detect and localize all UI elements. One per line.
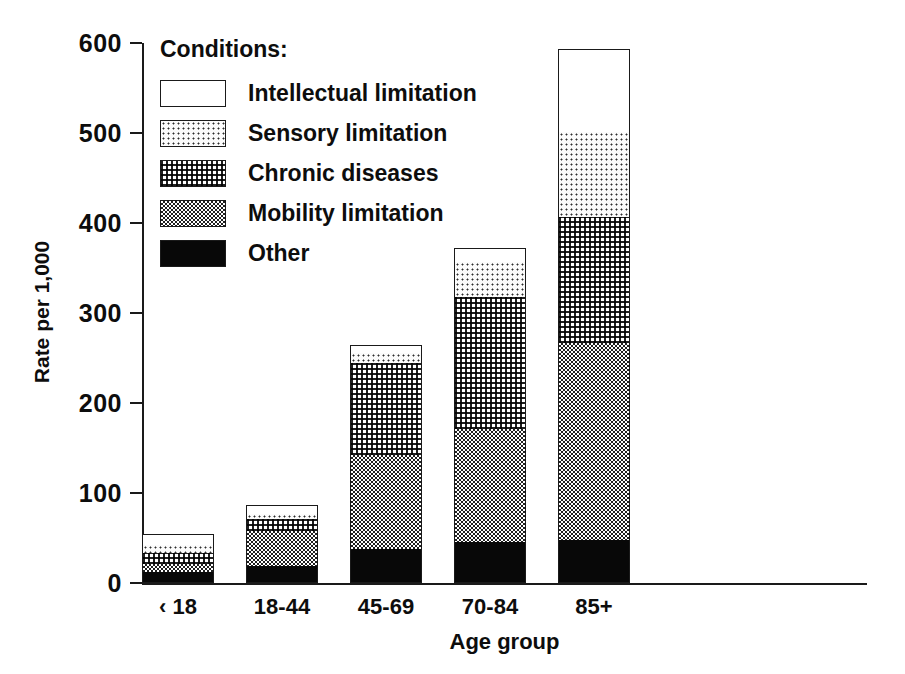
bar-4 [454, 248, 526, 583]
chart-figure: 0100200300400500600 Rate per 1,000 ‹ 181… [0, 0, 905, 674]
bar-segment-sensory-limitation [142, 545, 214, 553]
bar-segment-sensory-limitation [350, 353, 422, 364]
bar-segment-other [246, 566, 318, 583]
bar-segment-sensory-limitation [558, 132, 630, 217]
legend-items: Intellectual limitationSensory limitatio… [160, 73, 477, 273]
legend-title: Conditions: [160, 38, 477, 61]
legend-item-intellectual-limitation: Intellectual limitation [160, 73, 477, 113]
bar-segment-mobility-limitation [142, 564, 214, 572]
bar-2 [246, 505, 318, 583]
bar-segment-chronic-diseases [246, 519, 318, 531]
bar-segment-other [142, 572, 214, 583]
legend-label: Other [248, 242, 309, 265]
bar-3 [350, 345, 422, 584]
bar-segment-mobility-limitation [454, 429, 526, 542]
legend-label: Chronic diseases [248, 162, 438, 185]
legend-swatch-light-dots-icon [160, 120, 226, 147]
legend-swatch-dot-grid-icon [160, 160, 226, 187]
bar-segment-intellectual-limitation [142, 534, 214, 545]
bar-segment-sensory-limitation [246, 514, 318, 519]
legend-label: Intellectual limitation [248, 82, 477, 105]
bar-segment-other [350, 549, 422, 583]
bar-segment-chronic-diseases [454, 297, 526, 429]
bar-5 [558, 49, 630, 583]
bar-segment-intellectual-limitation [350, 345, 422, 353]
bar-1 [142, 534, 214, 583]
bar-segment-chronic-diseases [142, 553, 214, 564]
bar-segment-mobility-limitation [246, 531, 318, 566]
legend-swatch-white-icon [160, 80, 226, 107]
bar-segment-other [454, 542, 526, 583]
legend-item-mobility-limitation: Mobility limitation [160, 193, 477, 233]
legend-item-sensory-limitation: Sensory limitation [160, 113, 477, 153]
bar-segment-intellectual-limitation [558, 49, 630, 132]
legend-swatch-dense-checker-icon [160, 200, 226, 227]
bar-segment-chronic-diseases [350, 363, 422, 455]
legend-swatch-solid-black-icon [160, 240, 226, 267]
legend-item-chronic-diseases: Chronic diseases [160, 153, 477, 193]
legend-item-other: Other [160, 233, 477, 273]
bar-segment-other [558, 540, 630, 583]
bar-segment-mobility-limitation [558, 343, 630, 540]
legend-label: Mobility limitation [248, 202, 444, 225]
chart-legend: Conditions: Intellectual limitationSenso… [160, 38, 477, 273]
bar-segment-chronic-diseases [558, 217, 630, 343]
bar-segment-intellectual-limitation [246, 505, 318, 514]
legend-label: Sensory limitation [248, 122, 447, 145]
bar-segment-mobility-limitation [350, 455, 422, 549]
